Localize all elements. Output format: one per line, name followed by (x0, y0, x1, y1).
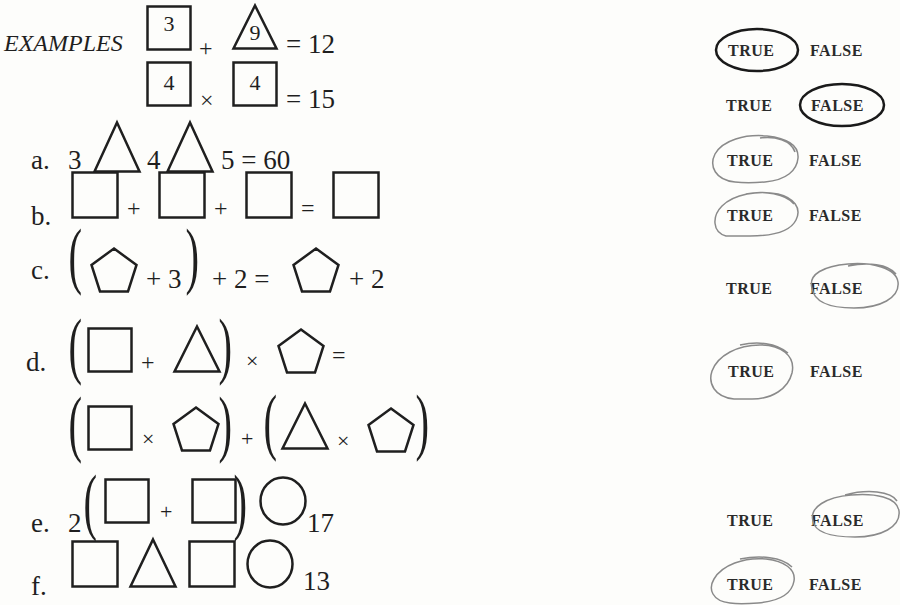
answer-circle-printed (713, 26, 803, 74)
problem-e-op1: + (160, 501, 172, 523)
square-icon (245, 171, 293, 219)
example1-triangle-value: 9 (232, 20, 278, 46)
problem-b-op2: + (214, 196, 228, 220)
problem-b-label: b. (31, 203, 51, 230)
pentagon-icon (277, 328, 325, 374)
problem-d-op4: + (241, 428, 253, 450)
problem-c-true-option[interactable]: TRUE (726, 280, 772, 298)
problem-c-plus2-equals: + 2 = (212, 266, 269, 293)
problem-d-op3: × (142, 428, 154, 450)
example2-true-option[interactable]: TRUE (726, 97, 772, 115)
example2-result: = 15 (286, 86, 335, 113)
triangle-icon (129, 538, 177, 588)
problem-d-op1: + (141, 350, 155, 374)
problem-f-num1: 13 (303, 568, 330, 595)
pentagon-icon (172, 406, 220, 452)
answer-circle-pencil (805, 487, 900, 543)
example1-result: = 12 (286, 31, 335, 58)
answer-circle-pencil (705, 130, 805, 186)
pentagon-icon (292, 247, 340, 293)
pentagon-icon (367, 407, 415, 453)
square-icon (191, 478, 237, 524)
close-paren: ) (234, 464, 248, 538)
triangle-icon (281, 402, 329, 450)
problem-a-num3: 5 (221, 145, 235, 175)
problem-c-plus3: + 3 (146, 266, 181, 293)
open-paren: ( (69, 218, 83, 292)
example1-operator: + (199, 36, 213, 60)
open-paren: ( (84, 464, 98, 538)
problem-a-result: 5 = 60 (221, 147, 290, 174)
example2-operator: × (200, 88, 214, 112)
problem-c-plus2: + 2 (349, 266, 384, 293)
problem-a-false-option[interactable]: FALSE (809, 152, 862, 170)
example1-box-value: 3 (146, 11, 192, 37)
problem-e-label: e. (31, 510, 50, 537)
square-icon (158, 171, 206, 219)
problem-a-num2: 4 (147, 147, 161, 174)
open-paren: ( (264, 384, 278, 458)
problem-f-label: f. (31, 573, 47, 600)
answer-circle-pencil (706, 188, 806, 240)
answer-circle-pencil (704, 337, 800, 403)
triangle-icon (166, 121, 214, 173)
example2-box2-value: 4 (232, 70, 278, 96)
square-icon (104, 478, 150, 524)
circle-icon (246, 539, 294, 589)
open-paren: ( (69, 308, 83, 382)
example2-box1-value: 4 (146, 70, 192, 96)
square-icon (332, 171, 380, 219)
problem-d-label: d. (26, 349, 46, 376)
square-icon (71, 540, 119, 588)
examples-label: EXAMPLES (4, 31, 123, 55)
problem-a-num1: 3 (68, 147, 82, 174)
answer-circle-printed (797, 80, 889, 130)
square-icon (87, 405, 133, 451)
square-icon (87, 327, 133, 373)
problem-f-false-option[interactable]: FALSE (809, 576, 862, 594)
problem-d-false-option[interactable]: FALSE (810, 363, 863, 381)
problem-b-false-option[interactable]: FALSE (809, 207, 862, 225)
circle-icon (259, 476, 307, 526)
close-paren: ) (416, 384, 430, 458)
problem-d-equals: = (332, 343, 346, 367)
problem-b-op1: + (127, 196, 141, 220)
problem-c-label: c. (31, 257, 50, 284)
problem-b-equals: = (301, 196, 315, 220)
problem-e-num1: 2 (68, 510, 82, 537)
triangle-icon (93, 121, 141, 173)
square-icon (188, 540, 236, 588)
close-paren: ) (219, 308, 233, 382)
problem-a-label: a. (31, 147, 50, 174)
open-paren: ( (69, 386, 83, 460)
close-paren: ) (219, 386, 233, 460)
problem-d-op2: × (246, 350, 258, 372)
answer-circle-pencil (804, 258, 900, 314)
pentagon-icon (90, 247, 138, 293)
example1-false-option[interactable]: FALSE (810, 42, 863, 60)
answer-circle-pencil (704, 551, 804, 605)
problem-d-op5: × (337, 430, 349, 452)
problem-e-true-option[interactable]: TRUE (727, 512, 773, 530)
square-icon (71, 171, 119, 219)
close-paren: ) (186, 218, 200, 292)
problem-e-num2: 17 (307, 510, 334, 537)
triangle-icon (173, 325, 221, 373)
